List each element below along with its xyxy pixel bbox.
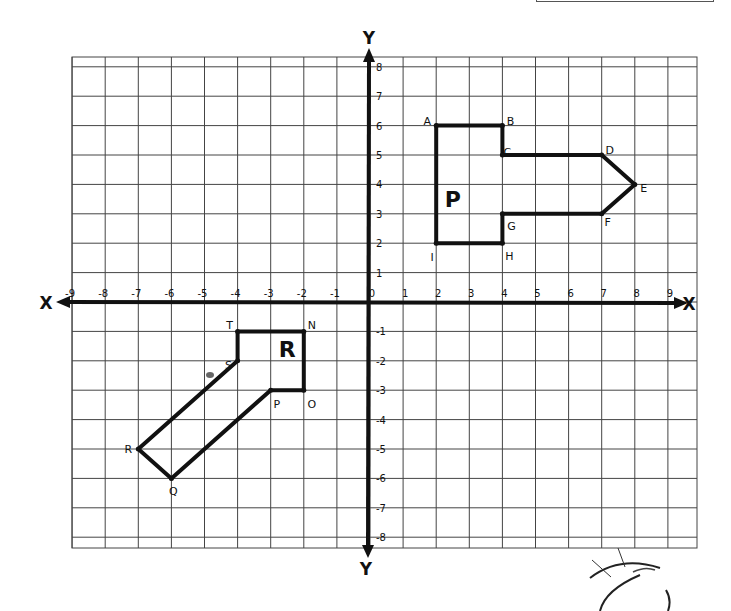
vertex-label: F [605,216,611,229]
vertex-point [500,211,505,216]
vertex-point [235,358,240,363]
y-tick-label: -5 [376,444,386,455]
hand-doodle [590,548,670,611]
x-tick-label: 7 [601,288,607,299]
x-tick-label: 2 [435,288,441,299]
vertex-point [500,123,505,128]
shape-label: R [279,337,296,362]
vertex-label: C [504,146,512,159]
vertex-label: Q [169,485,178,498]
x-tick-label: 3 [468,288,474,299]
x-tick-label: -4 [231,288,241,299]
x-tick-label: 8 [634,288,640,299]
x-tick-label: -1 [330,288,340,299]
y-tick-label: 4 [376,179,382,190]
vertex-label: R [124,443,132,456]
x-tick-label: -7 [131,288,141,299]
y-tick-label: -7 [376,503,386,514]
y-tick-label: -8 [376,532,386,543]
y-tick-label: 2 [376,238,382,249]
vertex-point [599,211,604,216]
x-tick-label: -9 [65,288,75,299]
vertex-point [301,329,306,334]
smudge-mark [206,372,214,378]
vertex-label: A [423,115,431,128]
vertex-point [632,182,637,187]
y-tick-label: -2 [376,356,386,367]
vertex-point [434,123,439,128]
vertex-label: S [225,359,232,372]
x-tick-label: -2 [297,288,307,299]
x-tick-label: -6 [164,288,174,299]
y-tick-label: -1 [376,326,386,337]
y-tick-label: 5 [376,150,382,161]
y-axis-arrow-up-icon [363,48,375,62]
vertex-point [500,241,505,246]
x-tick-label: 1 [402,288,408,299]
y-axis-label-bottom: Y [359,559,373,579]
vertex-label: T [225,319,233,332]
y-axis [368,58,369,548]
vertex-label: E [640,182,647,195]
y-axis-arrow-down-icon [362,545,374,558]
vertex-point [599,153,604,158]
y-tick-label: -6 [376,473,386,484]
vertex-point [301,388,306,393]
vertex-label: H [505,250,513,263]
x-tick-label: 5 [534,288,540,299]
vertex-point [268,388,273,393]
x-tick-label: 6 [567,288,573,299]
shape-label: P [445,187,461,212]
x-tick-label: 9 [667,288,673,299]
x-tick-label: -8 [98,288,108,299]
x-tick-label: 0 [369,288,375,299]
vertex-label: O [307,398,316,411]
x-axis [62,302,680,303]
vertex-point [434,241,439,246]
vertex-point [169,476,174,481]
y-tick-label: -4 [376,415,386,426]
x-tick-label: -3 [264,288,274,299]
vertex-label: P [273,398,280,411]
coordinate-plane: XXYY -9-8-7-6-5-4-3-2-101234567898765432… [0,0,731,611]
x-axis-label-left: X [39,293,52,313]
x-axis-label-right: X [682,294,695,314]
x-tick-label: -5 [198,288,208,299]
y-axis-label-top: Y [362,28,376,48]
vertex-label: B [507,115,515,128]
vertex-point [235,329,240,334]
y-tick-label: 6 [376,121,382,132]
vertex-label: G [507,220,516,233]
y-tick-label: 1 [376,268,382,279]
vertex-label: I [431,251,434,264]
x-tick-label: 4 [501,288,507,299]
vertex-label: D [605,144,613,157]
vertex-point [136,447,141,452]
y-tick-label: 8 [376,62,382,73]
vertex-label: N [308,319,316,332]
y-tick-label: 3 [376,209,382,220]
y-tick-label: -3 [376,385,386,396]
y-tick-label: 7 [376,91,382,102]
